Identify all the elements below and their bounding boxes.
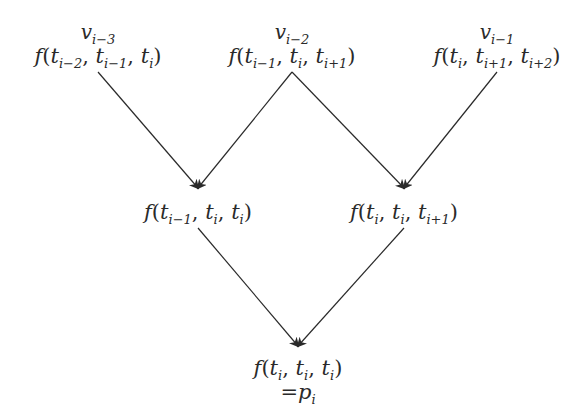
node-top-left: vi−3 f(ti−2, ti−1, ti) bbox=[34, 20, 161, 68]
node-bottom: f(ti, ti, ti) =pi bbox=[254, 356, 343, 404]
variable-label: vi−3 bbox=[34, 20, 161, 44]
function-expression: f(ti−1, ti, ti+1) bbox=[228, 44, 355, 68]
node-top-right: vi−1 f(ti, ti+1, ti+2) bbox=[433, 20, 560, 68]
function-expression: f(ti−2, ti−1, ti) bbox=[34, 44, 161, 68]
edge-tc-to-ml bbox=[198, 72, 292, 188]
function-expression: f(ti−1, ti, ti) bbox=[144, 200, 252, 224]
node-mid-right: f(ti, ti, ti+1) bbox=[350, 200, 458, 224]
result-expression: =pi bbox=[254, 380, 343, 404]
edge-ml-to-bottom bbox=[198, 228, 298, 346]
edge-tc-to-mr bbox=[292, 72, 404, 188]
edge-tl-to-ml bbox=[98, 72, 198, 188]
function-expression: f(ti, ti, ti+1) bbox=[350, 200, 458, 224]
variable-label: vi−2 bbox=[228, 20, 355, 44]
function-expression: f(ti, ti, ti) bbox=[254, 356, 343, 380]
edge-tr-to-mr bbox=[404, 72, 497, 188]
variable-label: vi−1 bbox=[433, 20, 560, 44]
function-expression: f(ti, ti+1, ti+2) bbox=[433, 44, 560, 68]
node-mid-left: f(ti−1, ti, ti) bbox=[144, 200, 252, 224]
node-top-center: vi−2 f(ti−1, ti, ti+1) bbox=[228, 20, 355, 68]
edge-mr-to-bottom bbox=[298, 228, 404, 346]
